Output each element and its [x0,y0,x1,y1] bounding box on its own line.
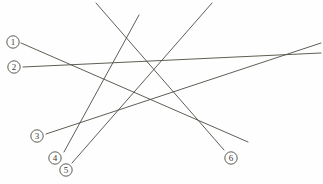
label-number-6: 6 [229,153,234,163]
label-number-1: 1 [11,37,16,47]
puzzle-label-5[interactable]: 5 [60,164,72,176]
puzzle-label-1[interactable]: 1 [7,36,19,48]
label-number-4: 4 [53,153,58,163]
label-number-5: 5 [64,165,69,175]
puzzle-label-2[interactable]: 2 [8,61,20,73]
puzzle-label-4[interactable]: 4 [49,152,61,164]
puzzle-label-3[interactable]: 3 [31,130,43,142]
puzzle-label-6[interactable]: 6 [225,152,237,164]
puzzle-line-6[interactable] [96,3,224,150]
puzzle-line-5[interactable] [72,3,212,163]
line-puzzle-canvas: 123456 [0,0,323,184]
label-number-2: 2 [12,62,17,72]
puzzle-line-4[interactable] [64,15,139,152]
puzzle-svg: 123456 [0,0,323,184]
puzzle-line-2[interactable] [23,53,321,67]
puzzle-line-3[interactable] [46,43,321,134]
puzzle-lines-group [21,3,321,163]
label-number-3: 3 [35,131,40,141]
